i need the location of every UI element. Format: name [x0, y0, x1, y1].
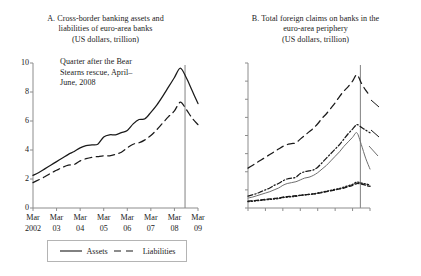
panel-b: B. Total foreign claims on banks in the …: [210, 0, 421, 276]
panel-a-annotation-line-3: June, 2008: [60, 78, 132, 89]
panel-a-annotation-line-1: Quarter after the Bear: [60, 57, 132, 68]
panel-a-legend: Assets Liabilities: [47, 240, 187, 262]
panel-a: A. Cross-border banking assets and liabi…: [0, 0, 211, 276]
panel-a-ytick-label: 10: [0, 58, 29, 67]
legend-swatch-solid: [59, 248, 83, 254]
panel-a-plot: [0, 0, 211, 276]
panel-a-ytick-label: 2: [0, 174, 29, 183]
panel-b-plot: [210, 0, 421, 276]
leader-line-ireland: [369, 146, 378, 156]
panel-a-ytick-label: 8: [0, 87, 29, 96]
panel-a-ytick-label: 4: [0, 145, 29, 154]
legend-item-assets: Assets: [59, 247, 108, 256]
panel-a-annotation-line-2: Stearns rescue, April–: [60, 68, 132, 79]
figure-container: A. Cross-border banking assets and liabi…: [0, 0, 421, 276]
leader-line-italy: [371, 100, 379, 107]
panel-a-ytick-label: 0: [0, 203, 29, 212]
series-line-ireland: [248, 133, 370, 198]
series-line-liabilities: [33, 102, 198, 182]
panel-a-ytick-label: 6: [0, 116, 29, 125]
legend-swatch-dashed: [113, 248, 139, 254]
legend-item-liabilities: Liabilities: [113, 247, 176, 256]
leader-line-spain: [371, 130, 379, 137]
series-line-portugal: [248, 182, 370, 202]
series-line-italy: [248, 75, 370, 168]
legend-label-assets: Assets: [87, 247, 108, 256]
legend-label-liabilities: Liabilities: [143, 247, 176, 256]
panel-a-annotation: Quarter after the Bear Stearns rescue, A…: [60, 57, 132, 89]
